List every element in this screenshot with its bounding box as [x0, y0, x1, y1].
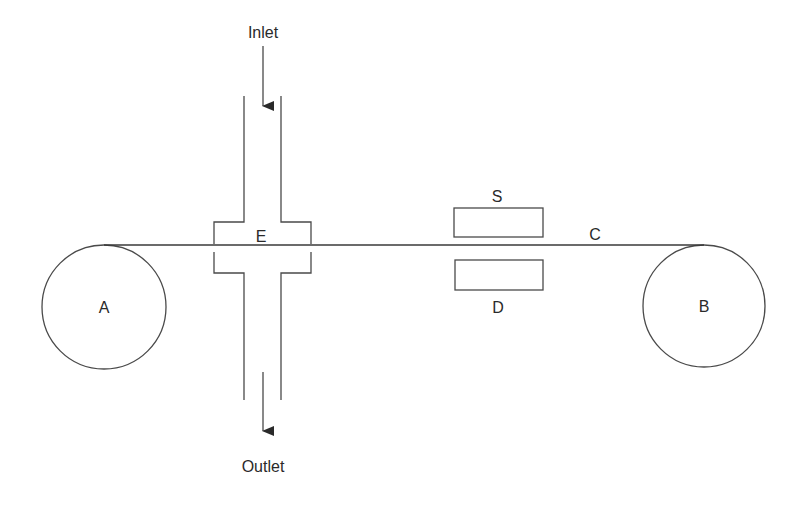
chamber-label: E [256, 228, 267, 245]
inlet-label: Inlet [248, 24, 279, 41]
flow-chamber [214, 96, 311, 400]
outlet-label: Outlet [242, 458, 285, 475]
takeup-roller-label: B [699, 298, 710, 315]
supply-roller-label: A [99, 299, 110, 316]
detector-label: D [492, 299, 504, 316]
source-box [454, 208, 543, 237]
upper-right-wall [281, 96, 311, 244]
upper-left-wall [214, 96, 244, 244]
apparatus-diagram: Inlet E Outlet A B C S D [0, 0, 797, 507]
source-label: S [492, 188, 503, 205]
lower-right-wall [281, 252, 311, 400]
detector-box [455, 260, 543, 290]
lower-left-wall [214, 252, 244, 400]
tape-label: C [589, 226, 601, 243]
